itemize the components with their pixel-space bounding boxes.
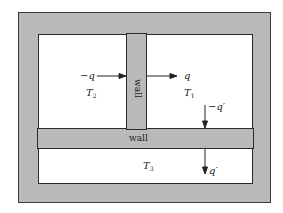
flux-label-minus-q: −q: [80, 71, 95, 81]
flux-label-q: q: [184, 71, 190, 81]
flux-label-q-prime: q′: [209, 166, 218, 176]
arrow-right-icon: [119, 74, 126, 79]
temp-label-t1: T1: [184, 88, 195, 99]
arrow-right-icon: [170, 74, 177, 79]
temp-label-t3: T3: [143, 161, 154, 172]
arrow-down-icon: [203, 167, 208, 174]
flux-arrows: [0, 0, 283, 213]
flux-label-minus-q-prime: −q′: [208, 102, 225, 112]
arrow-down-icon: [203, 121, 208, 128]
temp-label-t2: T2: [86, 88, 97, 99]
